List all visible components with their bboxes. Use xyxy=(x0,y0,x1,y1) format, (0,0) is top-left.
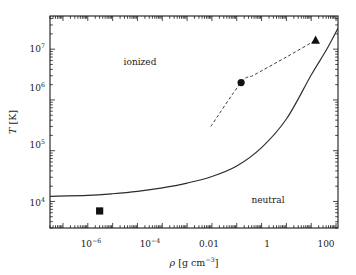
x-tick-label-5: 100 xyxy=(317,239,334,249)
circle-marker xyxy=(238,79,245,86)
x-tick-label-2: 10−4 xyxy=(140,237,161,249)
y-tick-label-1: 104 xyxy=(30,196,45,208)
x-tick-labels: 10−6 10−4 0.01 1 100 xyxy=(81,237,335,249)
region-label-neutral: neutral xyxy=(251,195,284,205)
y-tick-label-4: 107 xyxy=(30,42,45,54)
y-tick-labels: 104 105 106 107 xyxy=(30,42,45,208)
figure-container: 10−6 10−4 0.01 1 100 104 105 106 107 xyxy=(0,0,356,275)
y-tick-label-3: 106 xyxy=(30,81,45,93)
y-tick-label-2: 105 xyxy=(30,138,45,150)
y-axis-title: T [K] xyxy=(7,110,18,134)
x-tick-label-1: 10−6 xyxy=(81,237,102,249)
plot-area-background xyxy=(50,16,338,228)
square-marker xyxy=(96,207,103,214)
x-tick-label-4: 1 xyxy=(264,239,270,249)
physics-phase-diagram: 10−6 10−4 0.01 1 100 104 105 106 107 xyxy=(0,0,356,275)
region-label-ionized: ionized xyxy=(124,57,157,67)
x-axis-title: ρ [g cm−3] xyxy=(169,256,219,268)
x-tick-label-3: 0.01 xyxy=(199,239,219,249)
